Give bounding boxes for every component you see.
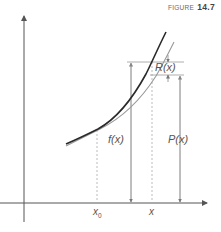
taylor-remainder-diagram: [0, 0, 221, 232]
caption-number: 14.7: [197, 2, 215, 12]
x-tick-label: x: [149, 207, 154, 217]
caption-prefix: FIGURE: [168, 4, 194, 11]
function-curve: [66, 32, 166, 144]
polynomial-curve: [66, 42, 174, 146]
x0-tick-label: x0: [93, 207, 102, 220]
axes: [0, 16, 207, 222]
figure-caption: FIGURE14.7: [168, 2, 215, 12]
function-value-label: f(x): [108, 134, 124, 145]
remainder-label: R(x): [155, 62, 176, 73]
polynomial-value-label: P(x): [168, 134, 188, 145]
figure-14-7: FIGURE14.7: [0, 0, 221, 232]
